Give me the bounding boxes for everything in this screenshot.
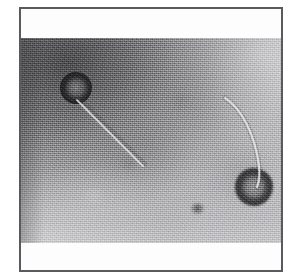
micrograph-vignette <box>21 38 281 247</box>
plate-band-bottom <box>21 243 281 270</box>
figure-frame <box>19 7 283 272</box>
electron-micrograph <box>21 38 281 247</box>
plate-band-top <box>21 9 281 38</box>
screenshot-root <box>0 0 302 280</box>
